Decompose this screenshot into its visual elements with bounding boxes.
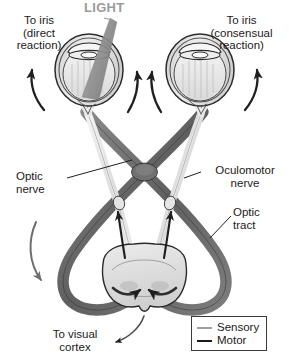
midbrain-body <box>102 243 186 311</box>
left-optic-tract-arrow <box>31 222 41 280</box>
right-outer-iris-arrow <box>245 70 258 110</box>
right-pupil <box>192 52 208 58</box>
optic-nerve-label: Optic nerve <box>16 170 68 195</box>
left-outer-iris-arrow <box>32 70 45 110</box>
right-pretectal-nucleus <box>151 281 169 291</box>
legend-item-motor: Motor <box>197 334 266 347</box>
left-pupil <box>81 52 97 58</box>
oculomotor-nerve-leader <box>184 172 201 178</box>
optic-tract-label: Optic tract <box>233 206 285 231</box>
figure-pupillary-light-reflex: LIGHT To iris (direct reaction) To iris … <box>0 0 289 363</box>
legend-item-sensory: Sensory <box>197 321 266 334</box>
optic-chiasm-highlight <box>136 165 154 176</box>
visual-cortex-arrow <box>116 316 144 342</box>
left-pretectal-nucleus <box>120 281 138 291</box>
light-label: LIGHT <box>84 2 125 15</box>
optic-nerve-leader <box>67 160 132 178</box>
oculomotor-nerve-label: Oculomotor nerve <box>203 164 287 189</box>
to-iris-direct-label: To iris (direct reaction) <box>2 14 76 52</box>
motor-line-icon <box>197 340 212 342</box>
optic-tract-leader <box>210 216 231 238</box>
to-iris-consensual-label: To iris (consensual reaction) <box>196 14 287 52</box>
midbrain <box>102 243 186 311</box>
sensory-line-icon <box>197 327 212 329</box>
legend-label-sensory: Sensory <box>217 321 259 334</box>
to-visual-cortex-label: To visual cortex <box>36 328 114 353</box>
left-inner-iris-arrow <box>128 72 138 112</box>
legend: Sensory Motor <box>191 316 267 351</box>
right-inner-iris-arrow <box>151 72 161 112</box>
legend-label-motor: Motor <box>217 334 246 347</box>
